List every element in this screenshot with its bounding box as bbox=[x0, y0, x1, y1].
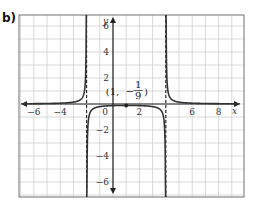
point-annotation: (1, −19) bbox=[106, 79, 148, 107]
graph: −6−40268642−2−4−6xy (1, −19) bbox=[0, 0, 256, 207]
svg-text:x: x bbox=[232, 106, 237, 116]
svg-text:−6: −6 bbox=[27, 107, 41, 117]
svg-text:−6: −6 bbox=[96, 177, 110, 187]
svg-text:1: 1 bbox=[135, 79, 141, 90]
function-curves bbox=[21, 15, 239, 197]
svg-text:−4: −4 bbox=[96, 151, 110, 161]
svg-text:−4: −4 bbox=[54, 107, 68, 117]
svg-text:−2: −2 bbox=[96, 125, 109, 135]
svg-text:6: 6 bbox=[189, 107, 195, 117]
svg-text:2: 2 bbox=[137, 107, 143, 117]
svg-text:4: 4 bbox=[103, 47, 109, 57]
svg-text:(1,: (1, bbox=[106, 86, 119, 97]
svg-text:8: 8 bbox=[216, 107, 222, 117]
svg-text:y: y bbox=[102, 16, 109, 26]
svg-text:0: 0 bbox=[102, 107, 108, 117]
svg-text:−: − bbox=[126, 86, 134, 97]
svg-text:): ) bbox=[144, 86, 148, 97]
svg-text:9: 9 bbox=[135, 90, 141, 101]
svg-text:2: 2 bbox=[103, 73, 109, 83]
